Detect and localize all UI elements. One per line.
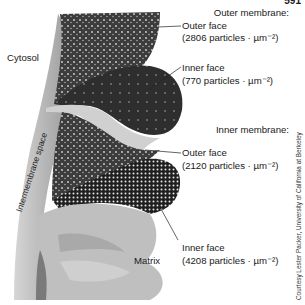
outer-membrane-heading: Outer membrane: — [214, 7, 289, 19]
outer-membrane-inner-face-label: Inner face — [182, 62, 225, 74]
inner-membrane-inner-face-density: (4208 particles · µm⁻²) — [182, 255, 278, 267]
inner-membrane-outer-face-density: (2120 particles · µm⁻²) — [182, 160, 278, 172]
page-number: 591 — [284, 0, 301, 6]
matrix-label: Matrix — [134, 255, 160, 267]
cytosol-label: Cytosol — [7, 52, 39, 64]
outer-membrane-outer-face-label: Outer face — [182, 20, 227, 32]
outer-membrane-inner-face-density: (770 particles · µm⁻²) — [182, 75, 273, 87]
inner-membrane-heading: Inner membrane: — [216, 124, 289, 136]
mitochondrion-freeze-fracture-figure: 591 Cytosol Intermembrane space Matrix O… — [0, 0, 305, 305]
matrix-region — [35, 204, 163, 300]
image-credit: Courtesy Lester Packer, University of Ca… — [295, 132, 302, 300]
inner-membrane-inner-face-label: Inner face — [182, 242, 225, 254]
outer-membrane-outer-face-density: (2806 particles · µm⁻²) — [182, 32, 278, 44]
inner-membrane-outer-face-label: Outer face — [182, 147, 227, 159]
